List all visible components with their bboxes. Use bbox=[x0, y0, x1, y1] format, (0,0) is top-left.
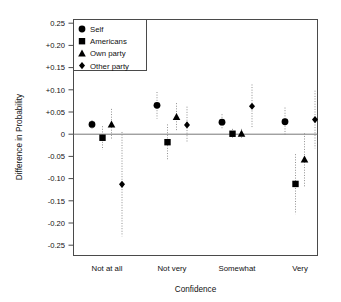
data-point-square bbox=[292, 181, 298, 187]
y-tick-label: +0.05 bbox=[46, 108, 65, 117]
data-point-circle bbox=[154, 102, 161, 109]
chart-container: 0.25+0.20+0.15+0.10+0.050-0.05-0.10-0.15… bbox=[0, 0, 341, 302]
legend-label: Other party bbox=[90, 62, 129, 71]
y-tick-label: +0.20 bbox=[46, 41, 65, 50]
y-tick-label: -0.05 bbox=[48, 152, 65, 161]
legend-label: Own party bbox=[90, 49, 126, 58]
legend-label: Self bbox=[90, 25, 104, 34]
x-tick-label: Very bbox=[292, 264, 308, 273]
legend-marker-square bbox=[79, 38, 85, 44]
data-point-square bbox=[164, 139, 170, 145]
chart-legend: SelfAmericansOwn partyOther party bbox=[74, 20, 147, 71]
y-tick-label: 0.25 bbox=[50, 19, 65, 28]
legend-label: Americans bbox=[90, 37, 127, 46]
y-tick-label: 0 bbox=[61, 130, 65, 139]
difference-in-probability-chart: 0.25+0.20+0.15+0.10+0.050-0.05-0.10-0.15… bbox=[0, 0, 341, 302]
y-tick-label: +0.15 bbox=[46, 63, 65, 72]
legend-marker-circle bbox=[79, 26, 86, 33]
data-point-square bbox=[229, 131, 235, 137]
data-point-square bbox=[99, 135, 105, 141]
x-axis-title: Confidence bbox=[175, 285, 217, 294]
y-tick-label: -0.25 bbox=[48, 241, 65, 250]
y-tick-label: -0.20 bbox=[48, 219, 65, 228]
x-tick-label: Somewhat bbox=[219, 264, 257, 273]
data-point-circle bbox=[282, 118, 289, 125]
data-point-circle bbox=[89, 121, 96, 128]
y-tick-label: -0.15 bbox=[48, 197, 65, 206]
data-point-circle bbox=[219, 119, 226, 126]
x-tick-label: Not at all bbox=[92, 264, 123, 273]
y-tick-label: +0.10 bbox=[46, 86, 65, 95]
y-tick-label: -0.10 bbox=[48, 174, 65, 183]
y-axis-title: Difference in Probability bbox=[15, 93, 24, 180]
x-tick-label: Not very bbox=[157, 264, 186, 273]
